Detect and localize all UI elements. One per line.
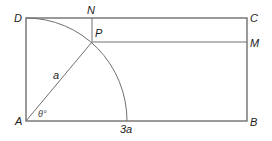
label-d: D (14, 12, 22, 24)
geometry-diagram: D N P C M A B a θ° 3a (0, 0, 272, 141)
label-n: N (87, 4, 95, 16)
label-a: A (14, 115, 22, 127)
label-m: M (250, 37, 260, 49)
rectangle-abcd (26, 18, 247, 121)
label-c: C (250, 12, 258, 24)
label-angle: θ° (38, 109, 47, 119)
radius-ap (26, 42, 92, 121)
quarter-arc (26, 18, 127, 121)
label-b: B (250, 116, 257, 128)
label-3a: 3a (120, 123, 132, 135)
label-radius: a (53, 69, 59, 81)
label-p: P (95, 27, 103, 39)
